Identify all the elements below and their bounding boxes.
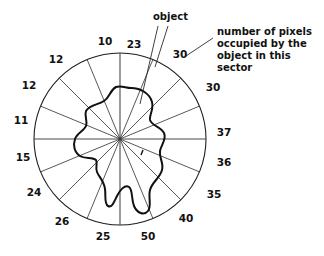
- sector-value-11: 15: [16, 151, 31, 163]
- sector-value-13: 12: [22, 79, 37, 91]
- object-label: object: [153, 11, 188, 22]
- callout-line-4: sector: [217, 62, 252, 73]
- sector-value-10: 24: [27, 186, 42, 198]
- sector-value-7: 50: [141, 230, 156, 242]
- sector-value-15: 10: [98, 35, 113, 47]
- sector-value-14: 12: [49, 53, 64, 65]
- sector-value-3: 37: [217, 126, 232, 138]
- sector-value-1: 30: [173, 48, 188, 60]
- callout-leader-line: [186, 38, 213, 56]
- callout-block: number of pixels occupied by the object …: [217, 26, 312, 73]
- polar-chart-svg: object number of pixels occupied by the …: [0, 0, 324, 256]
- sector-value-9: 26: [55, 215, 70, 227]
- callout-line-3: object in this: [217, 50, 291, 61]
- sector-value-0: 23: [127, 38, 142, 50]
- sector-value-12: 11: [14, 114, 29, 126]
- sector-value-8: 25: [96, 230, 111, 242]
- callout-line-1: number of pixels: [217, 26, 312, 37]
- sector-spokes: [34, 53, 206, 225]
- polar-sector-figure: object number of pixels occupied by the …: [0, 0, 324, 256]
- sector-value-5: 35: [207, 188, 222, 200]
- sector-value-2: 30: [206, 81, 221, 93]
- sector-value-6: 40: [179, 212, 194, 224]
- sector-value-4: 36: [217, 156, 232, 168]
- callout-line-2: occupied by the: [217, 38, 307, 49]
